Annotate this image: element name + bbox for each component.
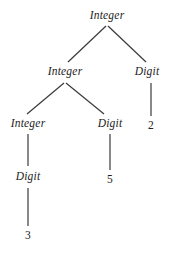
tree-node-nonterminal-digit: Digit [135,66,160,78]
tree-node-nonterminal-integer: Integer [90,10,125,22]
tree-node-terminal-3: 3 [25,230,31,242]
tree-node-nonterminal-digit: Digit [98,118,123,130]
tree-node-nonterminal-digit: Digit [16,171,41,183]
tree-node-nonterminal-integer: Integer [11,118,46,130]
tree-node-terminal-2: 2 [148,120,154,132]
tree-edge [68,26,106,62]
tree-edge [108,26,146,62]
tree-edge [27,83,64,114]
tree-node-nonterminal-integer: Integer [48,66,83,78]
parse-tree-diagram: IntegerIntegerDigitIntegerDigit2Digit53 [0,0,171,254]
tree-edge [66,83,104,114]
tree-node-terminal-5: 5 [107,174,113,186]
